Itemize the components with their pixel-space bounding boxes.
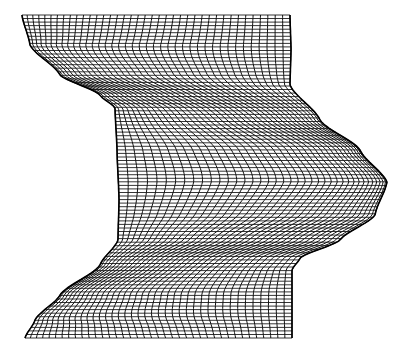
vertical-curve: [205, 15, 343, 338]
horizontal-rulings: [22, 15, 387, 338]
vertical-curves: [22, 15, 387, 338]
vertical-curve: [220, 15, 354, 338]
vertical-curve: [236, 15, 365, 338]
vertical-curve: [243, 15, 368, 338]
vertical-curve: [27, 15, 128, 338]
wireframe-mesh-figure: [0, 0, 406, 360]
vertical-curve: [213, 15, 349, 338]
vertical-curve: [228, 15, 359, 338]
vertical-curve: [197, 15, 337, 338]
